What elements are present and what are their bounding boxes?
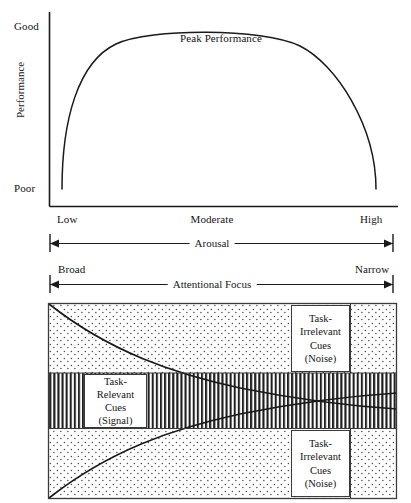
noise-bottom-line-4: (Noise) xyxy=(305,477,337,490)
figure-graphics xyxy=(0,0,411,503)
signal-line-4: (Signal) xyxy=(99,414,133,427)
y-axis-bottom-label: Poor xyxy=(14,182,35,194)
peak-performance-annotation: Peak Performance xyxy=(180,32,262,44)
y-axis-top-label: Good xyxy=(14,20,39,32)
y-axis-caption: Performance xyxy=(14,62,26,118)
x-axis-tick-moderate: Moderate xyxy=(191,213,234,225)
attentional-focus-left-label: Broad xyxy=(58,263,85,275)
signal-label-box: Task- Relevant Cues (Signal) xyxy=(84,374,147,428)
noise-top-line-2: Irrelevant xyxy=(300,325,341,338)
noise-bottom-line-3: Cues xyxy=(310,464,331,477)
inverted-u-curve xyxy=(62,32,376,189)
attentional-focus-right-label: Narrow xyxy=(355,263,389,275)
x-axis-tick-high: High xyxy=(360,213,382,225)
attentional-focus-scale-label: Attentional Focus xyxy=(168,278,257,290)
x-axis-tick-low: Low xyxy=(57,213,77,225)
signal-line-1: Task- xyxy=(104,375,127,388)
noise-label-box-bottom: Task- Irrelevant Cues (Noise) xyxy=(291,430,350,497)
arousal-scale-label: Arousal xyxy=(190,237,235,249)
noise-label-box-top: Task- Irrelevant Cues (Noise) xyxy=(291,305,350,372)
noise-top-line-1: Task- xyxy=(309,312,332,325)
signal-line-3: Cues xyxy=(105,401,126,414)
signal-line-2: Relevant xyxy=(97,388,134,401)
noise-bottom-line-1: Task- xyxy=(309,437,332,450)
noise-bottom-line-2: Irrelevant xyxy=(300,450,341,463)
noise-top-line-4: (Noise) xyxy=(305,352,337,365)
noise-top-line-3: Cues xyxy=(310,339,331,352)
figure-root: Good Performance Poor Peak Performance L… xyxy=(0,0,411,503)
